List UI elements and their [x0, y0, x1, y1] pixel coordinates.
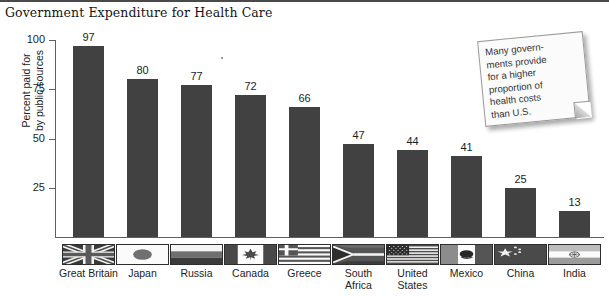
flag-united-states-icon [386, 244, 439, 265]
bar-value-label: 13 [549, 196, 600, 208]
annotation-text: Many govern- ments provide for a higher … [485, 38, 585, 122]
x-axis-baseline [55, 237, 604, 238]
bar-value-label: 77 [171, 70, 222, 82]
flag-china-icon [494, 244, 547, 265]
category-label-line: India [540, 268, 609, 280]
bar-value-label: 72 [225, 80, 276, 92]
flag-south-africa-icon [332, 244, 385, 265]
bar [235, 95, 266, 237]
bar-value-label: 47 [333, 129, 384, 141]
bar [451, 156, 482, 237]
flag-canada-icon [224, 244, 277, 265]
bar-value-label: 80 [117, 64, 168, 76]
annotation-sticky-note: Many govern- ments provide for a higher … [477, 31, 591, 127]
category-label-line: States [378, 280, 447, 292]
bar-value-label: 41 [441, 141, 492, 153]
bar [505, 188, 536, 237]
flag-japan-icon [116, 244, 169, 265]
bar [73, 46, 104, 237]
header-rule [0, 0, 609, 2]
flag-greece-icon [278, 244, 331, 265]
chart-title: Government Expenditure for Health Care [5, 5, 272, 20]
bar [397, 150, 428, 237]
scan-artifact-speck [221, 57, 223, 59]
bar [343, 144, 374, 237]
bar [289, 107, 320, 237]
flag-mexico-icon [440, 244, 493, 265]
bar-value-label: 44 [387, 135, 438, 147]
sticky-note-curl-icon [573, 101, 590, 118]
bar-value-label: 66 [279, 92, 330, 104]
bar-value-label: 25 [495, 173, 546, 185]
flag-india-icon [548, 244, 601, 265]
flags-row [0, 244, 609, 266]
bar [181, 85, 212, 237]
bar [559, 211, 590, 237]
bar-value-label: 97 [63, 31, 114, 43]
bar [127, 79, 158, 237]
flag-great-britain-icon [62, 244, 115, 265]
category-label: India [540, 268, 609, 280]
flag-russia-icon [170, 244, 223, 265]
